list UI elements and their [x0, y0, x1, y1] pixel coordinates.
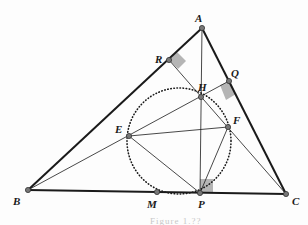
point-Q — [226, 78, 231, 83]
point-P — [197, 190, 202, 195]
label-F: F — [233, 115, 240, 126]
segment-FP — [200, 127, 228, 193]
point-H — [198, 94, 203, 99]
point-A — [199, 25, 204, 30]
label-E: E — [115, 124, 122, 135]
geometry-figure: A B C R Q H E F M P Figure 1.?? — [0, 0, 308, 225]
dotted-circle — [127, 88, 231, 194]
figure-caption: Figure 1.?? — [150, 216, 202, 225]
point-M — [154, 189, 159, 194]
point-R — [166, 57, 171, 62]
label-A: A — [195, 13, 202, 24]
label-M: M — [147, 199, 157, 210]
side-AB — [28, 28, 202, 190]
segment-EF — [129, 127, 228, 136]
side-AC — [202, 28, 286, 194]
label-Q: Q — [231, 68, 239, 79]
point-E — [126, 133, 131, 138]
label-B: B — [13, 196, 20, 207]
figure-svg — [0, 0, 308, 225]
label-H: H — [198, 82, 207, 93]
label-R: R — [155, 54, 162, 65]
segment-EP — [129, 136, 200, 193]
label-C: C — [292, 196, 299, 207]
point-F — [225, 124, 230, 129]
altitude-AP — [200, 28, 202, 193]
point-B — [25, 187, 30, 192]
point-C — [283, 191, 288, 196]
label-P: P — [198, 199, 205, 210]
